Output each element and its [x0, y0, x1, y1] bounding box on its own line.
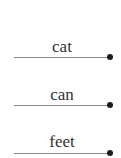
- word-item-feet: feet: [0, 133, 121, 158]
- answer-line: [14, 153, 110, 154]
- word-label: can: [14, 86, 110, 103]
- connector-dot-icon[interactable]: [107, 150, 113, 156]
- word-label: feet: [14, 133, 110, 150]
- connector-dot-icon[interactable]: [107, 54, 113, 60]
- answer-line: [14, 105, 110, 106]
- word-item-can: can: [0, 86, 121, 116]
- connector-dot-icon[interactable]: [107, 102, 113, 108]
- answer-line: [14, 57, 110, 58]
- word-item-cat: cat: [0, 38, 121, 68]
- word-label: cat: [14, 38, 110, 55]
